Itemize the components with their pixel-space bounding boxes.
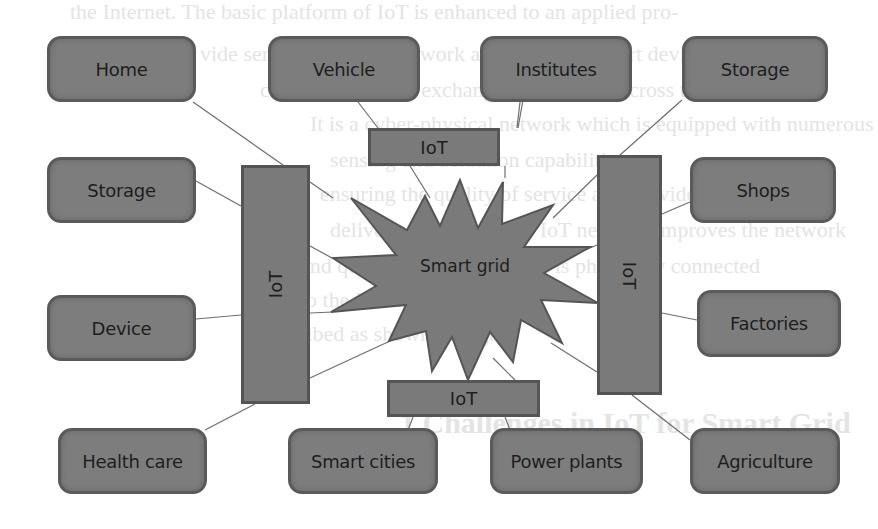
node-storage-left[interactable]: Storage — [47, 157, 196, 223]
node-vehicle[interactable]: Vehicle — [268, 36, 420, 102]
node-power-plants[interactable]: Power plants — [490, 428, 643, 494]
node-label: Vehicle — [313, 59, 375, 80]
node-smart-cities[interactable]: Smart cities — [288, 428, 438, 494]
node-storage-top[interactable]: Storage — [682, 36, 828, 102]
node-label: Storage — [87, 180, 155, 201]
iot-label: IoT — [265, 271, 286, 298]
node-label: Home — [96, 59, 148, 80]
node-label: Institutes — [515, 59, 596, 80]
iot-label: IoT — [619, 261, 640, 288]
iot-label: IoT — [450, 388, 477, 409]
node-factories[interactable]: Factories — [697, 290, 841, 357]
node-institutes[interactable]: Institutes — [480, 36, 632, 102]
node-label: Shops — [736, 180, 789, 201]
iot-label: IoT — [420, 137, 447, 158]
node-agriculture[interactable]: Agriculture — [690, 428, 840, 494]
node-label: Smart cities — [311, 451, 415, 472]
iot-layer-top[interactable]: IoT — [368, 128, 500, 166]
node-device[interactable]: Device — [47, 295, 196, 361]
node-label: Device — [92, 318, 152, 339]
node-home[interactable]: Home — [47, 36, 196, 102]
node-label: Power plants — [511, 451, 623, 472]
node-shops[interactable]: Shops — [690, 157, 836, 223]
node-health-care[interactable]: Health care — [58, 428, 207, 494]
node-label: Agriculture — [717, 451, 813, 472]
iot-layer-right[interactable]: IoT — [597, 155, 662, 395]
node-label: Health care — [82, 451, 183, 472]
iot-layer-bottom[interactable]: IoT — [387, 380, 540, 417]
smart-grid-hub-label: Smart grid — [410, 256, 520, 276]
node-label: Storage — [721, 59, 789, 80]
node-label: Factories — [730, 313, 808, 334]
iot-layer-left[interactable]: IoT — [241, 165, 310, 404]
